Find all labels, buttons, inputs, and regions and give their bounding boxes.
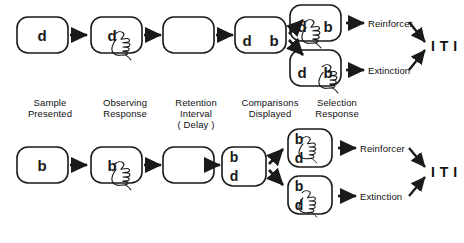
- stage-label-retention-interval: Retention Interval ( Delay ): [175, 97, 217, 130]
- stimulus-letter-r1-incorrect-right: b: [323, 65, 332, 80]
- stimulus-letter-r1-sample: d: [37, 28, 46, 43]
- stimulus-letter-r2-correct-bottom: d: [295, 151, 304, 165]
- stimulus-letter-r2-observing: b: [107, 158, 116, 173]
- stimulus-letter-r1-incorrect-left: d: [297, 65, 306, 80]
- stage-label-selection-response: Selection Response: [315, 97, 359, 119]
- stage-label-observing-response: Observing Response: [103, 97, 147, 119]
- stimulus-letter-r1-observing: d: [107, 28, 116, 43]
- stimulus-letter-r2-sample: b: [37, 158, 46, 173]
- stimulus-letter-r2-incorrect-bottom: d: [295, 198, 304, 212]
- stimulus-letter-r2-comparison-bottom: d: [230, 169, 239, 183]
- stimulus-letter-r2-incorrect-top: b: [295, 179, 304, 193]
- stimulus-letter-r1-correct-right: b: [323, 19, 332, 34]
- stimulus-letter-r1-comparison-left: d: [242, 33, 251, 48]
- stimulus-letter-r2-comparison-top: b: [230, 150, 239, 164]
- outcome-label-r2-reinforcer: Reinforcer: [360, 143, 405, 154]
- iti-label-row1: I T I: [431, 39, 458, 53]
- stimulus-letter-r1-comparison-right: b: [269, 33, 278, 48]
- outcome-label-r1-reinforcer: Reinforcer: [368, 18, 413, 29]
- stage-label-comparisons-displayed: Comparisons Displayed: [241, 97, 298, 119]
- outcome-label-r2-extinction: Extinction: [360, 191, 402, 202]
- stimulus-letter-r1-correct-left: d: [297, 19, 306, 34]
- outcome-label-r1-extinction: Extinction: [368, 65, 410, 76]
- diagram-canvas: d d d b d b d b b b b d b d b d Sample P…: [0, 0, 464, 243]
- stimulus-letter-r2-correct-top: b: [295, 132, 304, 146]
- iti-label-row2: I T I: [431, 165, 458, 179]
- stage-label-sample-presented: Sample Presented: [28, 97, 72, 119]
